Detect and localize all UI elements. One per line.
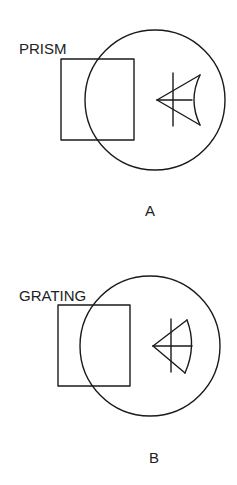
diagram-b: GRATING B bbox=[19, 276, 220, 466]
optics-diagram-canvas: PRISM A GRATING B bbox=[0, 0, 237, 485]
caption-a: A bbox=[145, 202, 155, 219]
prism-label: PRISM bbox=[19, 40, 67, 57]
diagram-a: PRISM A bbox=[19, 30, 225, 219]
field-circle bbox=[80, 276, 220, 416]
caption-b: B bbox=[149, 449, 159, 466]
eye-icon bbox=[153, 319, 192, 373]
eye-icon bbox=[157, 73, 200, 126]
grating-rectangle bbox=[58, 305, 130, 386]
field-circle bbox=[85, 30, 225, 170]
prism-rectangle bbox=[61, 59, 134, 140]
grating-label: GRATING bbox=[19, 287, 86, 304]
